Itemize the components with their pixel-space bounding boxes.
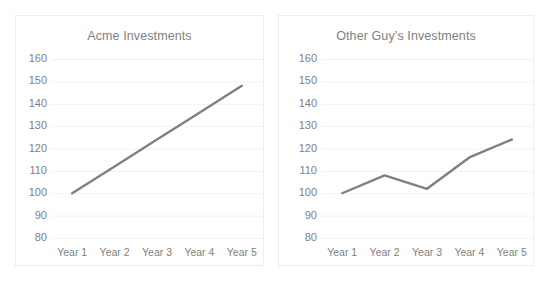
x-axis-tick-label: Year 4 — [178, 247, 220, 258]
y-axis-tick-label: 80 — [16, 232, 47, 243]
x-axis-tick-label: Year 2 — [93, 247, 135, 258]
series-line-acme-0 — [72, 86, 242, 193]
gridlines-acme — [51, 60, 263, 239]
x-axis-tick-label: Year 3 — [406, 247, 448, 258]
chart-canvas-acme — [16, 16, 265, 267]
y-axis-tick-label: 160 — [279, 53, 317, 64]
y-axis-tick-label: 100 — [279, 187, 317, 198]
y-axis-tick-label: 160 — [16, 53, 47, 64]
y-axis-tick-label: 100 — [16, 187, 47, 198]
y-axis-tick-label: 110 — [16, 165, 47, 176]
x-axis-tick-label: Year 3 — [136, 247, 178, 258]
x-axis-tick-label: Year 1 — [51, 247, 93, 258]
y-axis-tick-label: 150 — [279, 75, 317, 86]
y-axis-tick-label: 130 — [16, 120, 47, 131]
y-axis-tick-label: 90 — [16, 210, 47, 221]
plot-area-other-guy: 1601501401301201101009080Year 1Year 2Yea… — [279, 16, 533, 265]
y-axis-tick-label: 110 — [279, 165, 317, 176]
chart-card-acme: Acme Investments 16015014013012011010090… — [15, 15, 264, 266]
y-axis-tick-label: 90 — [279, 210, 317, 221]
gridlines-other-guy — [321, 60, 533, 239]
y-axis-tick-label: 80 — [279, 232, 317, 243]
x-axis-tick-label: Year 1 — [321, 247, 363, 258]
x-axis-tick-label: Year 5 — [221, 247, 263, 258]
y-axis-tick-label: 130 — [279, 120, 317, 131]
chart-card-other-guy: Other Guy’s Investments 1601501401301201… — [278, 15, 534, 266]
plot-area-acme: 1601501401301201101009080Year 1Year 2Yea… — [16, 16, 263, 265]
x-axis-tick-label: Year 2 — [363, 247, 405, 258]
series-line-other-guy-0 — [342, 140, 512, 194]
chart-canvas-other-guy — [279, 16, 535, 267]
charts-row: Acme Investments 16015014013012011010090… — [0, 0, 549, 284]
screenshot-root: Acme Investments 16015014013012011010090… — [0, 0, 549, 284]
x-axis-tick-label: Year 5 — [491, 247, 533, 258]
y-axis-tick-label: 140 — [279, 98, 317, 109]
x-axis-tick-label: Year 4 — [448, 247, 490, 258]
y-axis-tick-label: 150 — [16, 75, 47, 86]
y-axis-tick-label: 120 — [16, 143, 47, 154]
y-axis-tick-label: 120 — [279, 143, 317, 154]
y-axis-tick-label: 140 — [16, 98, 47, 109]
